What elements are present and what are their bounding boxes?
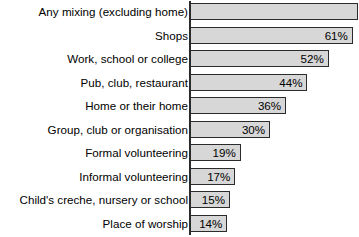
- bar-value-label: 44%: [279, 76, 306, 89]
- bar: 36%: [190, 97, 286, 114]
- bar: 17%: [190, 168, 235, 185]
- bar-wrapper: 19%: [190, 144, 241, 161]
- category-label: Place of worship: [2, 217, 188, 230]
- category-label: Formal volunteering: [2, 146, 188, 159]
- bar-wrapper: 61%: [190, 27, 353, 44]
- bar: 44%: [190, 74, 307, 91]
- bar: 30%: [190, 121, 270, 138]
- bar-wrapper: 17%: [190, 168, 235, 185]
- table-row: Child's creche, nursery or school 15%: [0, 188, 359, 212]
- bar: 61%: [190, 27, 353, 44]
- bar-wrapper: 15%: [190, 191, 230, 208]
- bar: 52%: [190, 50, 329, 67]
- table-row: Place of worship 14%: [0, 212, 359, 236]
- table-row: Formal volunteering 19%: [0, 141, 359, 165]
- bar-value-label: 19%: [213, 146, 240, 159]
- bar-wrapper: 30%: [190, 121, 270, 138]
- bar: 14%: [190, 215, 227, 232]
- bar-value-label: 17%: [207, 170, 234, 183]
- category-label: Work, school or college: [2, 52, 188, 65]
- category-label: Informal volunteering: [2, 170, 188, 183]
- category-label: Any mixing (excluding home): [2, 5, 188, 18]
- bar-value-label: 30%: [242, 123, 269, 136]
- bar: [190, 3, 358, 20]
- bar-value-label: 14%: [199, 217, 226, 230]
- table-row: Shops 61%: [0, 24, 359, 48]
- bar-wrapper: 36%: [190, 97, 286, 114]
- bar-value-label: 36%: [258, 99, 285, 112]
- bar-value-label: 15%: [202, 193, 229, 206]
- bar-value-label: 61%: [325, 29, 352, 42]
- horizontal-bar-chart: Any mixing (excluding home) Shops 61% Wo…: [0, 0, 359, 237]
- table-row: Group, club or organisation 30%: [0, 118, 359, 142]
- category-label: Group, club or organisation: [2, 123, 188, 136]
- bar-wrapper: [190, 3, 358, 20]
- category-label: Pub, club, restaurant: [2, 76, 188, 89]
- bar-wrapper: 14%: [190, 215, 227, 232]
- bar-value-label: 52%: [301, 52, 328, 65]
- bar-wrapper: 44%: [190, 74, 307, 91]
- table-row: Informal volunteering 17%: [0, 165, 359, 189]
- bar: 15%: [190, 191, 230, 208]
- category-label: Home or their home: [2, 99, 188, 112]
- category-label: Shops: [2, 29, 188, 42]
- bar-wrapper: 52%: [190, 50, 329, 67]
- bar: 19%: [190, 144, 241, 161]
- bar-rows-container: Any mixing (excluding home) Shops 61% Wo…: [0, 0, 359, 237]
- table-row: Any mixing (excluding home): [0, 0, 359, 24]
- table-row: Work, school or college 52%: [0, 47, 359, 71]
- table-row: Home or their home 36%: [0, 94, 359, 118]
- category-label: Child's creche, nursery or school: [2, 193, 188, 206]
- table-row: Pub, club, restaurant 44%: [0, 71, 359, 95]
